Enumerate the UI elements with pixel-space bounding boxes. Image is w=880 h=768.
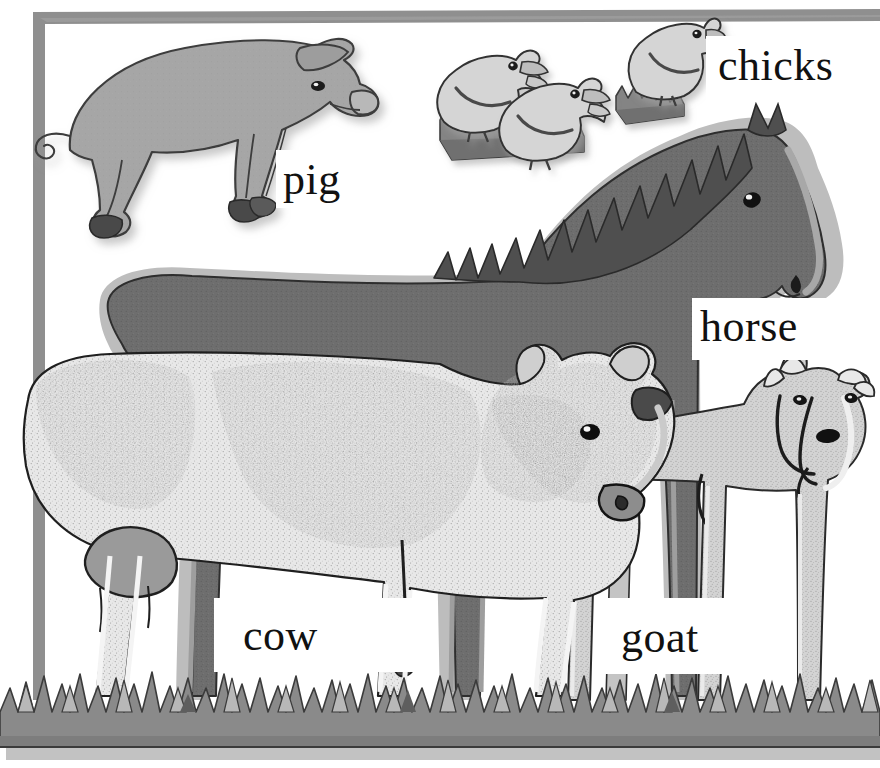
farm-animals-artwork xyxy=(0,0,880,768)
pig-icon xyxy=(36,39,379,238)
label-pig: pig xyxy=(283,158,341,202)
label-chicks: chicks xyxy=(718,44,833,88)
label-horse: horse xyxy=(700,305,798,349)
grass-icon xyxy=(0,672,880,760)
label-cow: cow xyxy=(243,614,318,658)
illustration-canvas: pig chicks horse cow goat xyxy=(0,0,880,768)
label-goat: goat xyxy=(621,616,699,660)
